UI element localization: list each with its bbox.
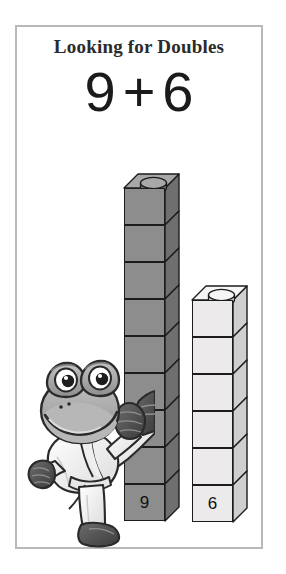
doubles-card: Looking for Doubles 9+6 9 6 (15, 25, 263, 549)
karate-frog-illustration (19, 357, 155, 549)
cube-number-label: 6 (192, 485, 233, 522)
equation-right-addend: 6 (162, 60, 193, 123)
cube-tower-six[interactable]: 6 (192, 286, 251, 528)
equation-left-addend: 9 (84, 60, 115, 123)
page-title: Looking for Doubles (17, 36, 261, 58)
cube[interactable]: 6 (192, 485, 233, 522)
equation-operator: + (116, 60, 163, 123)
equation: 9+6 (17, 64, 261, 120)
